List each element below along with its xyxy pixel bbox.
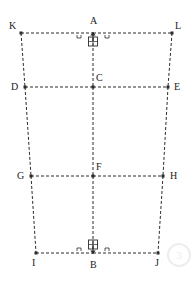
node-marker-J (157, 252, 160, 255)
node-label-K: K (9, 21, 16, 31)
member-right-post-upper (168, 33, 172, 87)
node-label-H: H (170, 171, 177, 181)
node-marker-I (35, 252, 38, 255)
member-left-post-upper (21, 33, 25, 87)
member-right-post-lower (158, 176, 163, 253)
node-marker-E (167, 86, 170, 89)
node-label-D: D (11, 82, 18, 92)
frame-diagram-svg (0, 0, 195, 283)
node-label-I: I (32, 258, 35, 268)
node-marker-F (92, 175, 95, 178)
support-bottom (77, 240, 109, 254)
node-label-C: C (96, 73, 103, 83)
node-label-A: A (90, 16, 97, 26)
diagram-canvas: KALDCEGFHIBJ 3 (0, 0, 195, 283)
support-top (77, 32, 109, 46)
node-label-J: J (155, 258, 159, 268)
node-marker-D (24, 86, 27, 89)
node-marker-C (92, 86, 95, 89)
node-label-B: B (90, 260, 97, 270)
member-left-post-lower (31, 176, 36, 253)
members-layer (21, 33, 172, 253)
node-label-E: E (174, 82, 180, 92)
node-label-F: F (96, 162, 102, 172)
node-marker-G (30, 175, 33, 178)
node-marker-K (20, 32, 23, 35)
watermark-badge: 3 (167, 243, 191, 267)
node-marker-H (162, 175, 165, 178)
node-markers-layer (20, 32, 174, 255)
node-label-G: G (17, 171, 24, 181)
node-label-L: L (175, 21, 181, 31)
member-right-post-middle (163, 87, 168, 176)
node-marker-L (171, 32, 174, 35)
member-left-post-middle (25, 87, 31, 176)
